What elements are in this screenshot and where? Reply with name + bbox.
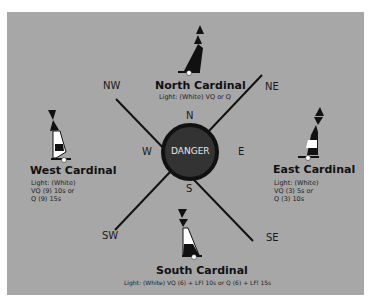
south-cardinal-buoy-icon (178, 209, 202, 260)
east-cardinal-buoy-icon (298, 107, 324, 161)
west-cardinal-light-1: Light: (White) (31, 179, 75, 187)
direction-e: E (238, 146, 244, 157)
east-cardinal-light-2: VQ (3) 5s or (274, 187, 313, 195)
east-cardinal-title: East Cardinal (273, 163, 355, 176)
south-cardinal-light: Light: (White) VQ (6) + LFl 10s or Q (6)… (124, 279, 271, 287)
direction-w: W (142, 146, 152, 157)
direction-s: S (186, 183, 192, 194)
direction-nw: NW (103, 80, 120, 91)
north-cardinal-buoy-icon (178, 25, 204, 76)
west-cardinal-buoy-icon (48, 110, 71, 163)
direction-sw: SW (102, 230, 118, 241)
east-cardinal-light-3: Q (3) 10s (274, 195, 304, 203)
east-cardinal-light-1: Light: (White) (274, 179, 318, 187)
north-cardinal-title: North Cardinal (155, 79, 246, 92)
direction-ne: NE (265, 81, 279, 92)
south-cardinal-title: South Cardinal (156, 264, 248, 277)
west-cardinal-title: West Cardinal (30, 164, 116, 177)
direction-se: SE (266, 232, 279, 243)
danger-label: DANGER (171, 146, 210, 156)
west-cardinal-light-2: VQ (9) 10s or (31, 187, 74, 195)
west-cardinal-light-3: Q (9) 15s (31, 195, 61, 203)
direction-n: N (186, 110, 193, 121)
north-cardinal-light: Light: (White) VQ or Q (159, 93, 231, 101)
